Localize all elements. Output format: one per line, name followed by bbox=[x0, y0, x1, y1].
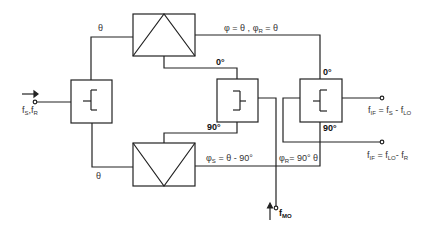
lo-hybrid-90-label: 90° bbox=[207, 122, 221, 132]
wire-top-mixer-if-hybrid bbox=[195, 35, 320, 79]
bottom-mixer-block bbox=[133, 143, 195, 186]
wire-lo-input bbox=[258, 98, 276, 206]
input-port bbox=[22, 91, 71, 104]
if-hybrid-0-label: 0° bbox=[323, 67, 332, 77]
lo-hybrid-0-label: 0° bbox=[216, 57, 225, 67]
if-hybrid-block bbox=[300, 79, 342, 122]
phase-bottom-r-label: φR= 90° θ bbox=[279, 153, 318, 166]
output-upper-label: fIF = fS - fLO bbox=[368, 105, 411, 118]
wire-lo-hybrid-bottom-mixer bbox=[164, 122, 237, 143]
wire-splitter-top-mixer bbox=[91, 37, 133, 80]
input-label: fS,fR bbox=[22, 105, 38, 118]
top-mixer-block bbox=[133, 14, 195, 56]
output-lower-port bbox=[380, 140, 384, 144]
phase-top-label: φ = θ , φR = θ bbox=[224, 23, 278, 36]
output-upper-port bbox=[380, 96, 384, 100]
theta-bottom-label: θ bbox=[96, 171, 101, 181]
output-lower-label: fIF = fLO- fR bbox=[367, 150, 408, 163]
wire-if-lower-output bbox=[283, 98, 380, 142]
wire-lo-hybrid-top-mixer bbox=[164, 56, 237, 79]
lo-input-label: fMO bbox=[279, 208, 292, 221]
phase-bottom-s-label: φS = θ - 90° bbox=[206, 153, 253, 166]
theta-top-label: θ bbox=[98, 23, 103, 33]
if-hybrid-90-label: 90° bbox=[323, 123, 337, 133]
lo-hybrid-block bbox=[217, 79, 258, 122]
wire-splitter-bottom-mixer bbox=[92, 123, 133, 167]
input-splitter-block bbox=[71, 80, 112, 123]
